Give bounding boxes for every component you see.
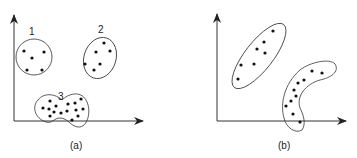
cluster-2: 2 [78, 24, 121, 83]
cluster-1: 1 [16, 26, 52, 75]
panel-b: (b) [217, 14, 346, 151]
cluster-elongated [223, 16, 294, 96]
cluster-3: 3 [35, 91, 89, 127]
panel-a: 1 2 3 [14, 15, 143, 151]
clustering-diagram: 1 2 3 [0, 0, 357, 158]
caption-b: (b) [278, 140, 290, 151]
cluster-1-label: 1 [29, 26, 35, 37]
cluster-2-label: 2 [98, 24, 104, 35]
caption-a: (a) [70, 140, 82, 151]
cluster-3-label: 3 [58, 91, 64, 102]
